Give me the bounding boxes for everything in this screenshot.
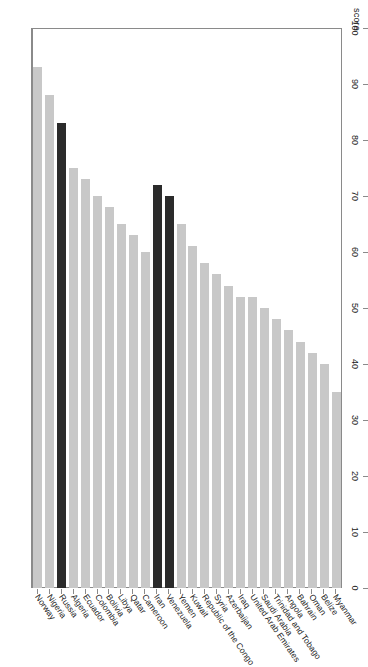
value-axis	[31, 28, 32, 588]
value-tick-label: 0	[350, 585, 360, 590]
bar	[177, 224, 186, 588]
bar	[272, 319, 281, 588]
bar	[224, 286, 233, 588]
bar	[33, 67, 42, 588]
bar	[296, 342, 305, 588]
value-tick	[363, 588, 368, 589]
bar	[260, 308, 269, 588]
value-tick	[363, 140, 368, 141]
bar	[141, 252, 150, 588]
bar	[153, 185, 162, 588]
bar	[308, 353, 317, 588]
value-tick	[363, 252, 368, 253]
value-tick	[363, 84, 368, 85]
bar	[69, 168, 78, 588]
value-tick-label: 100	[350, 20, 360, 35]
value-tick	[363, 308, 368, 309]
value-tick	[363, 364, 368, 365]
bar	[117, 224, 126, 588]
bar	[248, 297, 257, 588]
value-tick-label: 20	[350, 471, 360, 481]
bar	[57, 123, 66, 588]
bar	[236, 297, 245, 588]
bar	[284, 330, 293, 588]
value-tick-label: 40	[350, 359, 360, 369]
bar	[81, 179, 90, 588]
bar	[212, 274, 221, 588]
bar	[45, 95, 54, 588]
bar	[188, 246, 197, 588]
value-tick-label: 10	[350, 527, 360, 537]
bar	[165, 196, 174, 588]
value-tick	[363, 476, 368, 477]
value-tick	[363, 28, 368, 29]
bar	[332, 392, 341, 588]
bar	[129, 235, 138, 588]
value-tick-label: 60	[350, 247, 360, 257]
value-tick	[363, 532, 368, 533]
value-tick-label: 90	[350, 79, 360, 89]
bar	[320, 364, 329, 588]
bar	[200, 263, 209, 588]
value-tick-label: 50	[350, 303, 360, 313]
value-tick	[363, 420, 368, 421]
value-tick-label: 30	[350, 415, 360, 425]
value-tick-label: 70	[350, 191, 360, 201]
value-tick-label: 80	[350, 135, 360, 145]
bar	[105, 207, 114, 588]
value-tick	[363, 196, 368, 197]
bar	[93, 196, 102, 588]
